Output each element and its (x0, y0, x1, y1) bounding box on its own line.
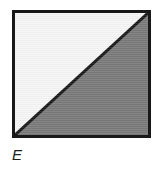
diagram-square (12, 10, 151, 138)
square-inner-stage (15, 13, 148, 135)
panel-label: E (12, 147, 23, 162)
figure-panel: E (0, 0, 163, 170)
